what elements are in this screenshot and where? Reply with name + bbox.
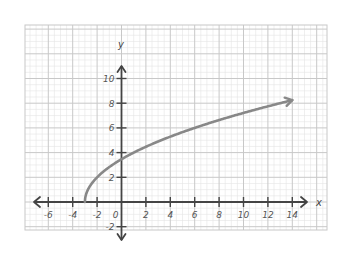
x-tick-label: 10 bbox=[238, 210, 250, 220]
y-tick-label: 2 bbox=[109, 173, 115, 183]
y-tick-label: -2 bbox=[106, 222, 115, 232]
x-tick-label: 6 bbox=[192, 210, 198, 220]
x-tick-label: -4 bbox=[68, 210, 77, 220]
function-graph: -6-4-202468101214-2246810 x y bbox=[0, 0, 354, 273]
x-tick-label: -2 bbox=[93, 210, 102, 220]
x-tick-label: 14 bbox=[287, 210, 299, 220]
x-tick-label: 2 bbox=[143, 210, 149, 220]
x-tick-label: 4 bbox=[167, 210, 173, 220]
y-tick-label: 8 bbox=[109, 99, 115, 109]
y-axis-label: y bbox=[117, 39, 125, 50]
x-tick-label: 0 bbox=[113, 210, 119, 220]
x-tick-label: 12 bbox=[262, 210, 274, 220]
x-tick-label: -6 bbox=[44, 210, 53, 220]
y-tick-label: 6 bbox=[109, 123, 115, 133]
x-tick-label: 8 bbox=[216, 210, 222, 220]
y-tick-label: 10 bbox=[103, 74, 115, 84]
y-tick-label: 4 bbox=[109, 148, 115, 158]
x-axis-label: x bbox=[315, 197, 322, 208]
grid-major-lines bbox=[25, 25, 327, 230]
